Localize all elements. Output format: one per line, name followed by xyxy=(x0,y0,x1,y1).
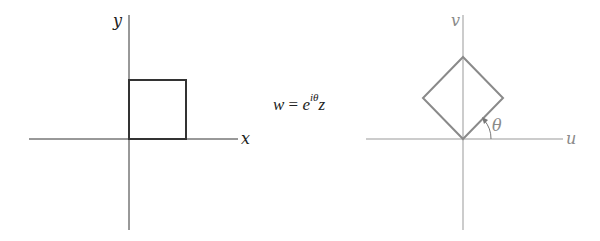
formula-equals: = xyxy=(289,95,299,114)
v-axis-label: v xyxy=(451,13,460,29)
diagram-canvas xyxy=(0,0,600,241)
formula-base: e xyxy=(302,95,310,114)
angle-label: θ xyxy=(492,118,502,134)
mapping-formula: w = eiθz xyxy=(273,93,325,115)
formula-var: z xyxy=(318,95,325,114)
formula-exponent: iθ xyxy=(310,91,318,103)
u-axis-label: u xyxy=(566,131,576,147)
square-shape xyxy=(129,80,186,139)
angle-arrowhead xyxy=(482,117,488,124)
formula-lhs: w xyxy=(273,95,284,114)
x-axis-label: x xyxy=(241,131,250,147)
y-axis-label: y xyxy=(113,13,122,29)
